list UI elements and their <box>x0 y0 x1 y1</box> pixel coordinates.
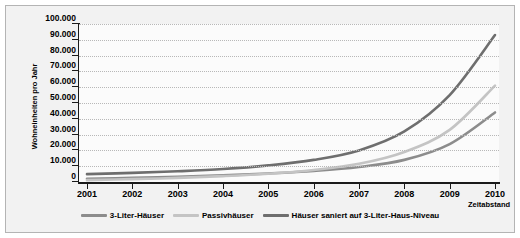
chart-panel: Wohneinheiten pro Jahr Zeitabstand 010.0… <box>5 5 515 233</box>
y-axis-tick-label: 40.000 <box>18 109 76 118</box>
gridline <box>79 103 499 104</box>
gridline <box>79 119 499 120</box>
x-axis-tick-label: 2003 <box>156 189 200 199</box>
y-axis-tick <box>72 181 78 182</box>
y-axis-tick <box>72 39 78 40</box>
gridline <box>79 24 499 25</box>
gridline <box>79 71 499 72</box>
y-axis-tick <box>72 86 78 87</box>
y-axis-tick-label: 20.000 <box>18 140 76 149</box>
legend-label: Häuser saniert auf 3-Liter-Haus-Niveau <box>292 211 440 220</box>
gridline <box>79 87 499 88</box>
y-axis-tick <box>72 118 78 119</box>
x-axis-tick-label: 2006 <box>292 189 336 199</box>
y-axis-tick-label: 80.000 <box>18 46 76 55</box>
plot-area <box>79 24 499 182</box>
legend-label: 3-Liter-Häuser <box>110 211 164 220</box>
y-axis-tick-label: 70.000 <box>18 61 76 70</box>
y-axis-tick <box>72 134 78 135</box>
y-axis-tick <box>72 102 78 103</box>
x-axis-tick-label: 2005 <box>246 189 290 199</box>
y-axis-tick-label: 10.000 <box>18 156 76 165</box>
y-axis-tick-label: 60.000 <box>18 77 76 86</box>
x-axis-tick-label: 2008 <box>382 189 426 199</box>
legend-item-3[interactable]: Häuser saniert auf 3-Liter-Haus-Niveau <box>263 211 440 220</box>
y-axis-tick <box>72 149 78 150</box>
x-axis-title: Zeitabstand <box>456 200 520 209</box>
y-axis-tick <box>72 55 78 56</box>
y-axis-tick-label: 100.000 <box>18 14 76 23</box>
legend-item-2[interactable]: Passivhäuser <box>173 211 254 220</box>
y-axis-tick <box>72 23 78 24</box>
y-axis-tick-label: 0 <box>18 172 76 181</box>
legend-swatch-icon <box>263 214 289 217</box>
y-axis-tick-label: 30.000 <box>18 125 76 134</box>
gridline <box>79 150 499 151</box>
legend-item-1[interactable]: 3-Liter-Häuser <box>81 211 164 220</box>
y-axis-tick-labels: 010.00020.00030.00040.00050.00060.00070.… <box>12 6 76 238</box>
x-axis-tick-label: 2009 <box>428 189 472 199</box>
legend-swatch-icon <box>173 214 199 217</box>
gridlines <box>79 24 499 182</box>
x-axis-line <box>78 182 500 184</box>
y-axis-tick <box>72 165 78 166</box>
x-axis-tick-label: 2002 <box>110 189 154 199</box>
chart-screenshot: Wohneinheiten pro Jahr Zeitabstand 010.0… <box>0 0 520 238</box>
x-axis-tick-label: 2007 <box>337 189 381 199</box>
x-axis-tick-label: 2010 <box>473 189 517 199</box>
y-axis-tick-label: 50.000 <box>18 93 76 102</box>
y-axis-tick-label: 90.000 <box>18 30 76 39</box>
x-axis-tick-label: 2001 <box>65 189 109 199</box>
legend-swatch-icon <box>81 214 107 217</box>
y-axis-tick <box>72 70 78 71</box>
gridline <box>79 56 499 57</box>
legend-label: Passivhäuser <box>202 211 254 220</box>
chart-legend: 3-Liter-HäuserPassivhäuserHäuser saniert… <box>6 211 514 220</box>
x-axis-tick-label: 2004 <box>201 189 245 199</box>
gridline <box>79 166 499 167</box>
gridline <box>79 135 499 136</box>
gridline <box>79 40 499 41</box>
